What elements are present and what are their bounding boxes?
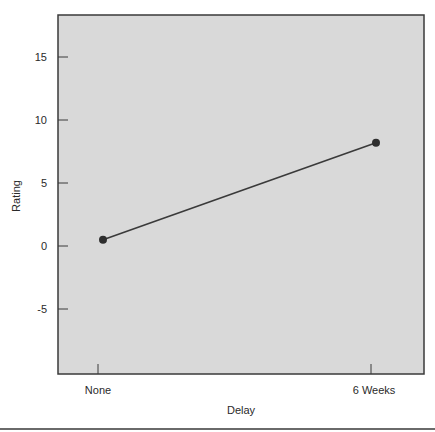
- y-axis-title: Rating: [10, 180, 22, 212]
- page-bottom-rule: [0, 428, 435, 430]
- y-tick-label: 15: [35, 51, 47, 63]
- x-tick-label: 6 Weeks: [353, 384, 396, 396]
- y-tick-label: 0: [41, 240, 47, 252]
- plot-area: [58, 15, 424, 374]
- data-point-marker: [99, 236, 107, 244]
- x-axis-title: Delay: [227, 404, 256, 416]
- y-tick-label: -5: [37, 303, 47, 315]
- data-point-marker: [372, 139, 380, 147]
- y-tick-label: 10: [35, 114, 47, 126]
- y-tick-label: 5: [41, 177, 47, 189]
- line-chart: 151050-5 None6 Weeks Delay Rating: [0, 0, 435, 432]
- x-tick-label: None: [85, 384, 111, 396]
